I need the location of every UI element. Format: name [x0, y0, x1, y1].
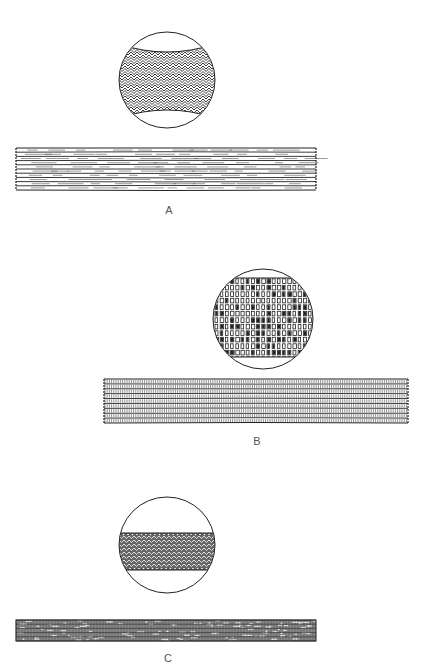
figure-c [16, 497, 317, 642]
magnified-detail-c [118, 533, 219, 570]
band-c [16, 620, 317, 642]
figure-a [16, 32, 328, 190]
illustration-canvas [0, 0, 425, 666]
band-a [16, 148, 328, 190]
figure-c-label: C [164, 653, 172, 664]
figure-a-label: A [165, 205, 172, 216]
figure-b-label: B [253, 436, 260, 447]
magnified-detail-b [213, 278, 313, 361]
band-b [104, 379, 408, 423]
magnified-detail-a [119, 44, 215, 121]
figure-b [104, 269, 408, 423]
